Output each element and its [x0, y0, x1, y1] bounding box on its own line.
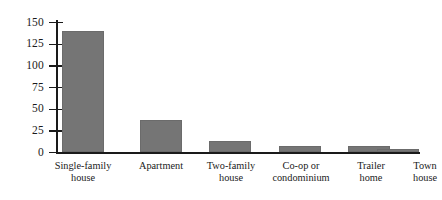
x-axis-category-label-town-house: Townhouse — [369, 160, 442, 185]
bar — [62, 31, 104, 152]
x-axis-label-line: house — [27, 172, 139, 184]
bar — [209, 141, 251, 152]
bar — [140, 120, 182, 152]
x-axis-label-line: house — [369, 172, 442, 184]
bar — [377, 149, 419, 152]
bar — [279, 146, 321, 152]
x-axis-label-line: Town — [369, 160, 442, 172]
